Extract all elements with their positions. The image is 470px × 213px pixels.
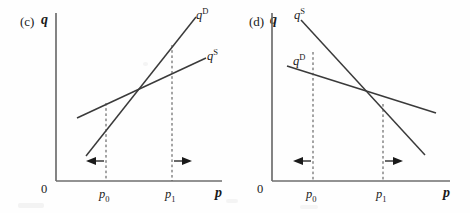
demand-curve-c (86, 17, 196, 156)
right-arrow-p1-c (174, 157, 192, 165)
figure-container: (c) q 0 p qD qS p0 p1 (0, 0, 470, 213)
plot-svg-d (235, 0, 470, 213)
plot-svg-c (0, 0, 235, 213)
demand-curve-d (287, 66, 436, 113)
left-arrow-p0-d (293, 157, 311, 165)
panel-d: (d) q 0 p qS qD p0 p1 (235, 0, 470, 213)
supply-curve-c (77, 58, 206, 118)
right-arrow-p1-d (385, 157, 403, 165)
left-arrow-p0-c (86, 157, 104, 165)
panel-c: (c) q 0 p qD qS p0 p1 (0, 0, 235, 213)
supply-curve-d (301, 20, 425, 155)
